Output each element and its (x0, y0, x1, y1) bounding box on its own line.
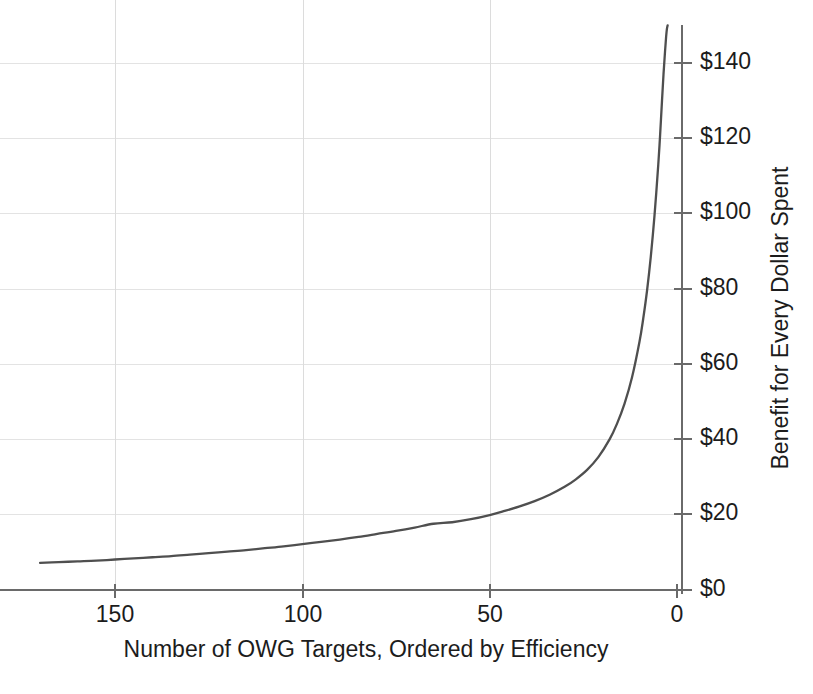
xtick-label-0: 0 (671, 601, 684, 627)
ytick-label-120: $120 (700, 123, 751, 149)
ytick-label-20: $20 (700, 499, 738, 525)
vertical-gridlines (115, 0, 490, 590)
ytick-label-140: $140 (700, 48, 751, 74)
x-axis-tick-marks (115, 584, 677, 598)
data-series-line (40, 25, 668, 563)
y-axis-title: Benefit for Every Dollar Spent (767, 166, 793, 470)
horizontal-gridlines (0, 63, 682, 514)
ytick-label-0: $0 (700, 575, 726, 601)
xtick-label-150: 150 (96, 601, 134, 627)
benefit-cost-line-chart: $140 $120 $100 $80 $60 $40 $20 $0 150 10… (0, 0, 813, 694)
y-axis-tick-marks (674, 63, 692, 590)
ytick-label-100: $100 (700, 198, 751, 224)
x-axis-tick-labels: 150 100 50 0 (96, 601, 684, 627)
ytick-label-40: $40 (700, 424, 738, 450)
ytick-label-60: $60 (700, 349, 738, 375)
x-axis-title: Number of OWG Targets, Ordered by Effici… (124, 636, 609, 662)
xtick-label-100: 100 (284, 601, 322, 627)
chart-container: $140 $120 $100 $80 $60 $40 $20 $0 150 10… (0, 0, 813, 694)
ytick-label-80: $80 (700, 274, 738, 300)
xtick-label-50: 50 (477, 601, 503, 627)
y-axis-tick-labels: $140 $120 $100 $80 $60 $40 $20 $0 (700, 48, 751, 601)
